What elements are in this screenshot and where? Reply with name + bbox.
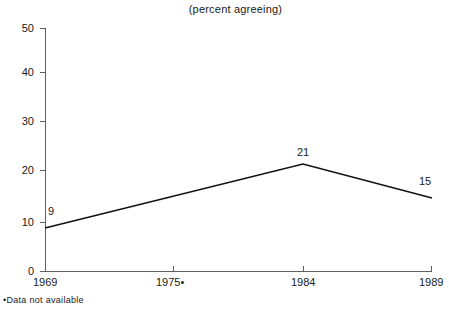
x-tick-label-1984: 1984 bbox=[291, 277, 315, 288]
data-series-line bbox=[45, 164, 432, 228]
chart-container: (percent agreeing) 50 40 30 20 10 0 1969… bbox=[0, 0, 449, 312]
data-label-1969: 9 bbox=[48, 206, 54, 217]
y-tick-label-0: 0 bbox=[4, 266, 34, 277]
data-label-1984: 21 bbox=[297, 147, 309, 158]
y-tick-label-30: 30 bbox=[4, 116, 34, 127]
data-label-1989: 15 bbox=[419, 176, 431, 187]
y-tick-label-10: 10 bbox=[4, 217, 34, 228]
x-tick-label-1975: 1975• bbox=[156, 277, 184, 288]
y-tick-label-20: 20 bbox=[4, 165, 34, 176]
plot-area bbox=[0, 0, 449, 312]
x-tick-label-1989: 1989 bbox=[419, 277, 443, 288]
x-tick-label-1969: 1969 bbox=[33, 277, 57, 288]
y-tick-label-40: 40 bbox=[4, 67, 34, 78]
footnote-text: •Data not available bbox=[3, 295, 84, 305]
y-tick-label-50: 50 bbox=[4, 23, 34, 34]
